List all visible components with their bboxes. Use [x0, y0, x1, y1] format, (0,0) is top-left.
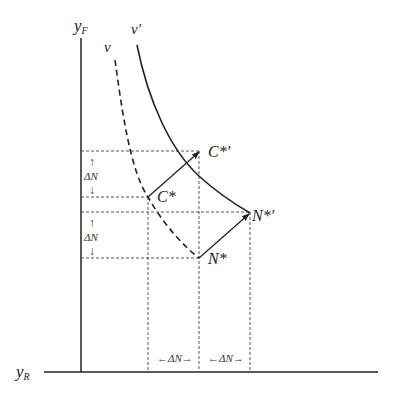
curve-v: [115, 60, 199, 258]
svg-text:↓: ↓: [89, 244, 95, 258]
svg-text:ΔN: ΔN: [83, 231, 98, 243]
svg-text:ΔN: ΔN: [83, 170, 98, 182]
svg-text:↑: ↑: [89, 155, 95, 169]
curve-v-prime: [137, 45, 250, 213]
point-c-star-prime: C*′: [208, 143, 231, 160]
diagram-canvas: yF yR v v′ C*′ C* N*′ N* ↑ ΔN ↓ ↑ ΔN ↓ ←…: [0, 0, 395, 397]
delta-n-vertical-upper: ↑ ΔN ↓: [83, 155, 98, 197]
curve-v-prime-label: v′: [131, 21, 142, 37]
y-axis-label: yF: [72, 16, 89, 36]
delta-n-horizontal-right: ←ΔN→: [208, 352, 244, 364]
point-n-star-prime: N*′: [251, 207, 275, 224]
curve-v-label: v: [104, 39, 111, 55]
x-axis-label: yR: [14, 362, 30, 382]
delta-n-horizontal-left: ←ΔN→: [157, 352, 193, 364]
svg-text:↓: ↓: [89, 183, 95, 197]
point-c-star: C*: [157, 188, 176, 205]
point-n-star: N*: [207, 250, 227, 267]
svg-text:↑: ↑: [89, 216, 95, 230]
delta-n-vertical-lower: ↑ ΔN ↓: [83, 216, 98, 258]
